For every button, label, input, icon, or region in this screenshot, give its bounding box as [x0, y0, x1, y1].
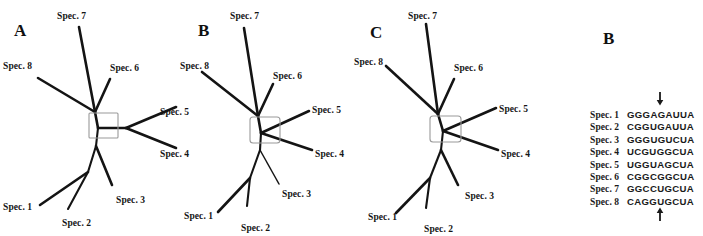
leaf-label-spec-8: Spec. 8: [354, 58, 383, 68]
tree-diagram-b: [178, 0, 353, 236]
leaf-label-spec-8: Spec. 8: [180, 62, 209, 72]
alignment-row: Spec. 7 GGCCUGCUA: [590, 183, 695, 195]
branch-spec-8: [202, 72, 258, 116]
branch-spec-8: [38, 78, 95, 112]
leaf-label-spec-5: Spec. 5: [312, 106, 341, 116]
alignment-row-sequence: GGGAGAUUA: [627, 109, 695, 120]
leaf-label-spec-3: Spec. 3: [465, 192, 494, 202]
alignment-row-name: Spec. 3: [590, 135, 627, 145]
branch-spec-6: [438, 79, 454, 114]
leaf-label-spec-8: Spec. 8: [3, 62, 32, 72]
alignment-row: Spec. 2 CGGUGAUUA: [590, 121, 695, 133]
branch-spec-6: [258, 84, 273, 116]
tree-diagram-a: [0, 0, 185, 236]
alignment-row-sequence: UCGUGGCUA: [627, 146, 694, 157]
internal-branch-lower: [96, 128, 98, 146]
leaf-label-spec-7: Spec. 7: [408, 12, 437, 22]
leaf-label-spec-6: Spec. 6: [273, 72, 302, 82]
panel-letter-alignment: B: [603, 30, 614, 47]
branch-spec-7: [426, 24, 438, 114]
internal-branch-upper: [258, 116, 261, 133]
alignment-row-name: Spec. 2: [590, 122, 627, 132]
internal-branch-lower: [260, 133, 261, 150]
alignment-row-sequence: CAGGUGCUA: [627, 196, 694, 207]
branch-spec-3: [96, 146, 112, 185]
leaf-label-spec-2: Spec. 2: [241, 224, 270, 234]
tree-panel-b: B Spec. 1 Spec. 2 Spec. 3 Spec. 4 Spec. …: [178, 0, 353, 236]
tree-panel-c: C Spec. 1 Spec. 2 Spec. 3 Spec. 4 Spec. …: [348, 0, 573, 236]
alignment-row-sequence: GGCCUGCUA: [627, 183, 694, 194]
alignment-row-sequence: GGGUGUCUA: [627, 134, 695, 145]
leaf-label-spec-7: Spec. 7: [230, 12, 259, 22]
alignment-row-sequence: CGGUGAUUA: [627, 121, 694, 132]
highlight-box: [89, 113, 118, 138]
tree-panel-a: A Spec. 1 Spec. 2 Spec. 3 Spec. 4: [0, 0, 185, 236]
figure-root: A Spec. 1 Spec. 2 Spec. 3 Spec. 4: [0, 0, 703, 236]
leaf-label-spec-1: Spec. 1: [184, 212, 213, 222]
alignment-row-name: Spec. 7: [590, 184, 627, 194]
alignment-row-name: Spec. 8: [590, 197, 627, 207]
alignment-row-name: Spec. 1: [590, 110, 627, 120]
leaf-label-spec-1: Spec. 1: [3, 203, 32, 213]
internal-branch-lower: [441, 131, 443, 150]
leaf-label-spec-6: Spec. 6: [454, 64, 483, 74]
alignment-row: Spec. 5 UGGUAGCUA: [590, 159, 695, 171]
branch-spec-4: [443, 131, 498, 150]
up-arrow-icon: [655, 207, 665, 221]
alignment-row-sequence: CGGCGGCUA: [627, 171, 695, 182]
leaf-label-spec-3: Spec. 3: [282, 190, 311, 200]
branch-spec-8: [386, 66, 438, 114]
alignment-rows: Spec. 1 GGGAGAUUA Spec. 2 CGGUGAUUA Spec…: [590, 109, 695, 208]
branch-bottom-node: [250, 150, 260, 178]
branch-spec-6: [95, 79, 110, 112]
alignment-row: Spec. 8 CAGGUGCUA: [590, 196, 695, 208]
leaf-label-spec-6: Spec. 6: [110, 64, 139, 74]
leaf-label-spec-3: Spec. 3: [116, 196, 145, 206]
branch-spec-5: [261, 111, 309, 133]
leaf-label-spec-2: Spec. 2: [424, 225, 453, 235]
alignment-row: Spec. 3 GGGUGUCUA: [590, 134, 695, 146]
alignment-panel: B Spec. 1 GGGAGAUUA Spec. 2 CGGUGAUUA Sp…: [566, 0, 703, 236]
alignment-row-name: Spec. 6: [590, 172, 627, 182]
leaf-label-spec-1: Spec. 1: [368, 213, 397, 223]
down-arrow-icon: [655, 92, 665, 106]
branch-spec-5: [443, 108, 496, 131]
leaf-label-spec-4: Spec. 4: [501, 150, 530, 160]
branch-spec-1: [218, 178, 250, 212]
leaf-label-spec-7: Spec. 7: [57, 12, 86, 22]
leaf-label-spec-2: Spec. 2: [62, 219, 91, 229]
leaf-label-spec-5: Spec. 5: [499, 105, 528, 115]
alignment-row: Spec. 1 GGGAGAUUA: [590, 109, 695, 121]
internal-branch-upper: [95, 112, 98, 128]
tree-diagram-c: [348, 0, 573, 236]
leaf-label-spec-4: Spec. 4: [315, 150, 344, 160]
alignment-row-sequence: UGGUAGCUA: [627, 159, 694, 170]
branch-spec-3: [441, 150, 458, 185]
alignment-row-name: Spec. 4: [590, 147, 627, 157]
alignment-row: Spec. 6 CGGCGGCUA: [590, 171, 695, 183]
branch-spec-4: [261, 133, 312, 150]
branch-spec-3: [260, 150, 279, 184]
branch-spec-1: [40, 172, 88, 205]
branch-spec-7: [79, 27, 95, 112]
branch-spec-4: [126, 128, 176, 148]
branch-bottom-node: [88, 146, 96, 172]
branch-spec-1: [396, 178, 430, 213]
alignment-row: Spec. 4 UCGUGGCUA: [590, 146, 695, 158]
branch-spec-7: [244, 28, 258, 116]
branch-bottom-node: [430, 150, 441, 178]
alignment-row-name: Spec. 5: [590, 160, 627, 170]
